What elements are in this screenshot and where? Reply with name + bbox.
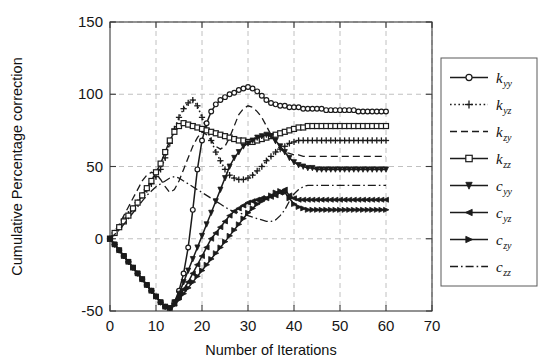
- series-marker: [186, 245, 191, 250]
- chart-legend[interactable]: kyykyzkzykzzcyycyzczyczz: [441, 58, 537, 286]
- series-marker: [149, 178, 154, 183]
- legend-label-subscript: yy: [502, 78, 512, 89]
- series-marker: [163, 150, 168, 155]
- legend-label-subscript: yz: [502, 213, 511, 224]
- legend-label-subscript: zy: [502, 132, 512, 143]
- x-axis-title: Number of Iterations: [205, 342, 336, 358]
- legend-label-subscript: zy: [502, 240, 512, 251]
- series-marker: [172, 129, 177, 134]
- series-marker: [223, 95, 228, 100]
- series-marker: [154, 170, 159, 175]
- series-marker: [255, 89, 260, 94]
- legend-label-subscript: zz: [502, 267, 511, 278]
- legend-label-subscript: zz: [502, 159, 511, 170]
- x-tick-label: 0: [106, 317, 114, 334]
- x-tick-label: 30: [240, 317, 257, 334]
- legend-label-subscript: yy: [502, 186, 512, 197]
- series-marker: [167, 138, 172, 143]
- series-marker: [158, 161, 163, 166]
- chart-figure: 010203040506070-50050100150 Number of It…: [0, 0, 542, 363]
- series-marker: [190, 207, 195, 212]
- series-marker: [218, 98, 223, 103]
- y-tick-label: 0: [95, 230, 103, 247]
- series-marker: [213, 102, 218, 107]
- x-tick-label: 20: [194, 317, 211, 334]
- series-marker: [259, 93, 264, 98]
- series-marker: [264, 98, 269, 103]
- series-marker: [200, 138, 205, 143]
- series-marker: [144, 186, 149, 191]
- y-tick-label: 50: [86, 158, 103, 175]
- series-marker: [195, 167, 200, 172]
- x-tick-label: 50: [332, 317, 349, 334]
- series-marker: [126, 213, 131, 218]
- y-tick-label: 100: [78, 85, 103, 102]
- series-marker: [250, 86, 255, 91]
- x-tick-label: 40: [286, 317, 303, 334]
- series-marker: [384, 109, 389, 114]
- series-marker: [140, 193, 145, 198]
- series-marker: [232, 90, 237, 95]
- series-marker: [209, 109, 214, 114]
- y-tick-label: -50: [81, 302, 103, 319]
- series-marker: [135, 200, 140, 205]
- legend-label-subscript: yz: [502, 105, 511, 116]
- y-tick-label: 150: [78, 13, 103, 30]
- legend-box: [441, 58, 537, 286]
- series-marker: [466, 155, 472, 161]
- series-marker: [466, 74, 472, 80]
- x-tick-label: 70: [424, 317, 441, 334]
- chart-svg: 010203040506070-50050100150 Number of It…: [0, 0, 542, 363]
- x-tick-label: 10: [148, 317, 165, 334]
- x-tick-label: 60: [378, 317, 395, 334]
- series-marker: [384, 124, 389, 129]
- y-axis-title: Cumulative Percentage correction: [9, 57, 25, 275]
- series-marker: [181, 271, 186, 276]
